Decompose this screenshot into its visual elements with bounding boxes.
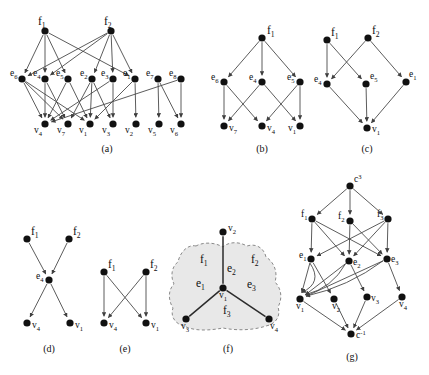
graph-node[interactable] [363, 124, 370, 131]
graph-node[interactable] [258, 78, 265, 85]
graph-node[interactable] [88, 75, 95, 82]
node-label: f1 [108, 258, 116, 273]
graph-edge [158, 83, 159, 117]
node-label: v7 [57, 125, 66, 137]
graph-edge [353, 224, 382, 254]
graph-node[interactable] [220, 78, 227, 85]
graph-edge [135, 83, 136, 117]
graph-edge [49, 33, 129, 76]
node-label: e4 [249, 72, 257, 84]
graph-node[interactable] [364, 34, 371, 41]
graph-edge [227, 85, 258, 121]
graph-node[interactable] [402, 78, 409, 85]
node-label: c-1 [356, 329, 366, 340]
graph-edge [332, 41, 366, 79]
graph-node[interactable] [362, 80, 369, 87]
graph-node[interactable] [132, 120, 139, 127]
graph-edge [52, 243, 67, 274]
node-label: v2 [332, 301, 340, 313]
node-label: f2 [73, 225, 81, 240]
graph-node[interactable] [100, 268, 107, 275]
node-label: v1 [288, 123, 296, 135]
node-label: e1 [123, 68, 131, 80]
node-label: e2 [353, 257, 361, 269]
graph-edge [265, 85, 296, 121]
graph-node[interactable] [346, 217, 353, 224]
graph-node[interactable] [323, 80, 330, 87]
graph-edge [354, 301, 366, 328]
panel-caption-b: (b) [256, 143, 268, 155]
graph-node[interactable] [155, 120, 162, 127]
graph-node[interactable] [308, 215, 315, 222]
node-label: v4 [399, 299, 408, 311]
graph-node[interactable] [384, 215, 391, 222]
node-label: v5 [148, 125, 157, 137]
graph-node[interactable] [41, 75, 48, 82]
graph-edge [51, 284, 67, 317]
panel-caption-d: (d) [43, 343, 55, 355]
graph-node[interactable] [23, 235, 30, 242]
graph-node[interactable] [41, 120, 48, 127]
graph-node[interactable] [307, 255, 314, 262]
graph-node[interactable] [154, 75, 161, 82]
graph-edge [389, 263, 400, 291]
node-label: v4 [34, 125, 43, 137]
graph-node[interactable] [296, 78, 303, 85]
node-label: f1 [267, 24, 275, 39]
node-label: f2 [150, 258, 158, 273]
graph-node[interactable] [109, 120, 116, 127]
graph-node[interactable] [65, 235, 72, 242]
graph-node[interactable] [64, 75, 71, 82]
node-label: e5 [56, 68, 64, 80]
graph-node[interactable] [258, 122, 265, 129]
graph-node[interactable] [347, 330, 354, 337]
graph-node[interactable] [142, 268, 149, 275]
graph-edge [90, 83, 92, 117]
node-label: f1 [301, 209, 307, 221]
graph-edge [26, 81, 85, 120]
graph-node[interactable] [363, 293, 370, 300]
graph-node[interactable] [258, 34, 265, 41]
panel-caption-a: (a) [101, 143, 112, 155]
figure-canvas: f1f2e6e4e5e2e3e1e7e8v4v7v1v3v2v5v6f1e6e4… [0, 0, 429, 375]
node-label: e1 [409, 69, 417, 81]
graph-edge [317, 189, 347, 215]
graph-edge [95, 35, 110, 73]
graph-node[interactable] [142, 319, 149, 326]
graph-node[interactable] [219, 228, 226, 235]
graph-node[interactable] [177, 75, 184, 82]
graph-edge [266, 85, 297, 121]
graph-node[interactable] [109, 75, 116, 82]
graph-node[interactable] [64, 120, 71, 127]
graph-node[interactable] [383, 255, 390, 262]
graph-node[interactable] [18, 75, 25, 82]
graph-node[interactable] [177, 120, 184, 127]
graph-node[interactable] [100, 319, 107, 326]
graph-node[interactable] [86, 120, 93, 127]
node-label: f1 [38, 15, 46, 30]
figure-root: f1f2e6e4e5e2e3e1e7e8v4v7v1v3v2v5v6f1e6e4… [0, 0, 429, 375]
graph-edge [371, 41, 402, 77]
graph-edge [349, 225, 350, 254]
node-label: e3 [391, 254, 399, 266]
panel-caption-f: (f) [223, 343, 233, 355]
graph-edge [317, 221, 384, 256]
graph-node[interactable] [345, 257, 352, 264]
graph-node[interactable] [23, 319, 30, 326]
node-label: v1 [372, 124, 380, 136]
node-label: v1 [296, 301, 304, 313]
node-label: e1 [299, 250, 307, 262]
graph-edge [354, 222, 386, 256]
graph-node[interactable] [131, 75, 138, 82]
graph-edge [330, 43, 362, 79]
graph-node[interactable] [346, 182, 353, 189]
graph-node[interactable] [323, 36, 330, 43]
node-label: v4 [32, 320, 41, 332]
graph-edge [316, 221, 381, 256]
graph-node[interactable] [296, 122, 303, 129]
graph-node[interactable] [45, 276, 52, 283]
panel-caption-g: (g) [346, 351, 358, 363]
panel-caption-c: (c) [361, 143, 372, 155]
graph-node[interactable] [220, 122, 227, 129]
graph-node[interactable] [66, 319, 73, 326]
